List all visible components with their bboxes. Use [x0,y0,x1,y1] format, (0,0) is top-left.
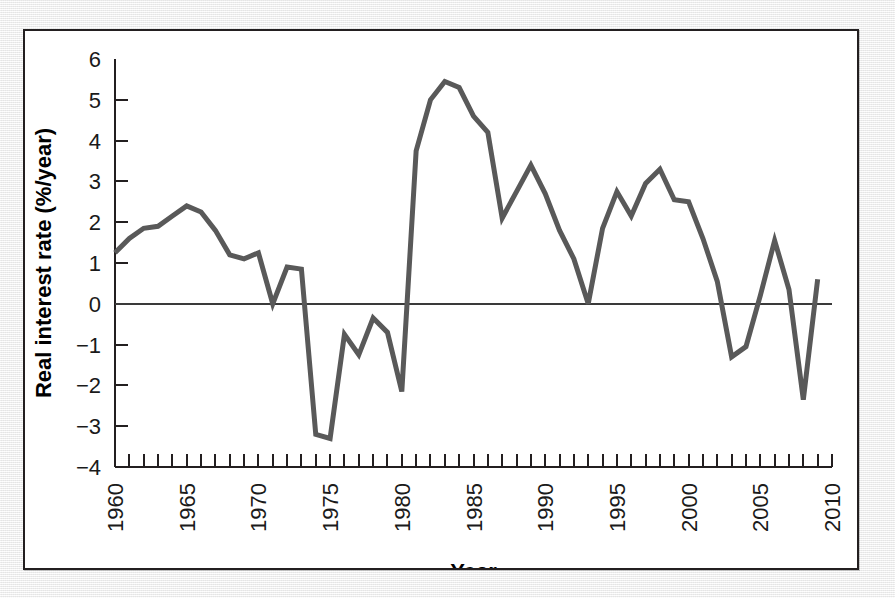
y-axis-tick-label: 2 [89,210,101,235]
y-axis-tick-label: −3 [76,414,101,439]
page-background: −4−3−2−101234561960196519701975198019851… [0,0,895,598]
x-axis-tick-label: 1975 [318,483,343,532]
x-axis-tick-label: 2010 [820,483,845,532]
x-axis-tick-label: 1980 [390,483,415,532]
x-axis-tick-label: 2005 [748,483,773,532]
x-axis-tick-label: 1985 [462,483,487,532]
y-axis-tick-label: 4 [89,129,101,154]
y-axis-tick-label: 6 [89,47,101,72]
y-axis-tick-label: −2 [76,373,101,398]
y-axis-tick-label: 5 [89,88,101,113]
x-axis-tick-label: 1965 [175,483,200,532]
y-axis-tick-label: 1 [89,251,101,276]
x-axis-title: Year [450,559,497,568]
x-axis-tick-label: 2000 [677,483,702,532]
y-axis-tick-label: −1 [76,333,101,358]
y-axis-tick-label: 3 [89,169,101,194]
y-axis-title: Real interest rate (%/year) [31,128,56,398]
y-axis-tick-label: 0 [89,292,101,317]
x-axis-tick-label: 1960 [103,483,128,532]
figure-frame: −4−3−2−101234561960196519701975198019851… [23,29,859,570]
x-axis-tick-label: 1995 [605,483,630,532]
y-axis-tick-label: −4 [76,455,101,480]
x-axis-tick-label: 1990 [533,483,558,532]
x-axis-tick-label: 1970 [246,483,271,532]
real-interest-rate-line-chart: −4−3−2−101234561960196519701975198019851… [25,31,857,568]
real-interest-rate-series [115,81,818,438]
